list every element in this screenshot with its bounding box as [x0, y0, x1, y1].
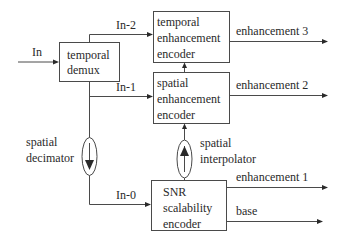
- spatial-interpolator-line2: interpolator: [200, 152, 256, 166]
- spatial-to-temporal-link: [182, 63, 187, 73]
- spatial-enhancement-encoder-line2: enhancement: [157, 92, 221, 106]
- scalable-encoder-block-diagram: In temporal demux In-2 In-1 spatial deci…: [0, 0, 344, 243]
- in-2-signal: In-2: [90, 18, 154, 42]
- input-label: In: [32, 45, 42, 59]
- up-arrow-icon: [182, 63, 187, 69]
- arrow-head-icon: [317, 219, 323, 224]
- temporal-enhancement-encoder-line1: temporal: [157, 15, 200, 29]
- arrow-head-icon: [322, 185, 328, 190]
- enhancement-1-label: enhancement 1: [236, 170, 308, 184]
- temporal-enhancement-encoder-line2: enhancement: [157, 31, 221, 45]
- spatial-decimator-line1: spatial: [26, 135, 58, 149]
- snr-encoder-line1: SNR: [163, 185, 186, 199]
- spatial-enhancement-encoder-line1: spatial: [157, 76, 189, 90]
- temporal-demux-block: temporal demux: [60, 43, 120, 82]
- spatial-decimator-line2: decimator: [26, 151, 74, 165]
- base-label: base: [236, 204, 257, 218]
- arrow-head-icon: [322, 39, 328, 44]
- in-0-label: In-0: [116, 188, 136, 202]
- temporal-demux-line1: temporal: [67, 48, 110, 62]
- output-enhancement-2: enhancement 2: [230, 78, 329, 98]
- in-1-label: In-1: [116, 80, 136, 94]
- arrow-head-icon: [322, 93, 328, 98]
- spatial-decimator: spatial decimator: [26, 135, 97, 176]
- up-arrow-icon: [182, 124, 187, 130]
- snr-encoder-line3: encoder: [163, 217, 201, 231]
- enhancement-3-label: enhancement 3: [236, 24, 308, 38]
- arrow-head-icon: [147, 94, 153, 99]
- in-0-signal: In-0: [90, 176, 152, 208]
- in-1-signal: In-1: [90, 80, 154, 138]
- arrow-head-icon: [145, 202, 151, 207]
- arrow-head-icon: [147, 32, 153, 37]
- enhancement-2-label: enhancement 2: [236, 78, 308, 92]
- snr-encoder-line2: scalability: [163, 201, 212, 215]
- in-2-label: In-2: [116, 18, 136, 32]
- snr-scalability-encoder-block: SNR scalability encoder: [152, 181, 227, 232]
- spatial-enhancement-encoder-line3: encoder: [157, 108, 195, 122]
- spatial-interpolator-line1: spatial: [200, 136, 232, 150]
- output-enhancement-1: enhancement 1: [227, 170, 329, 190]
- temporal-enhancement-encoder-line3: encoder: [157, 47, 195, 61]
- temporal-demux-line2: demux: [67, 63, 100, 77]
- arrow-head-icon: [53, 60, 59, 65]
- input-signal: In: [18, 45, 59, 65]
- output-enhancement-3: enhancement 3: [230, 24, 329, 44]
- spatial-enhancement-encoder-block: spatial enhancement encoder: [154, 73, 230, 124]
- temporal-enhancement-encoder-block: temporal enhancement encoder: [154, 12, 230, 63]
- output-base: base: [227, 204, 324, 224]
